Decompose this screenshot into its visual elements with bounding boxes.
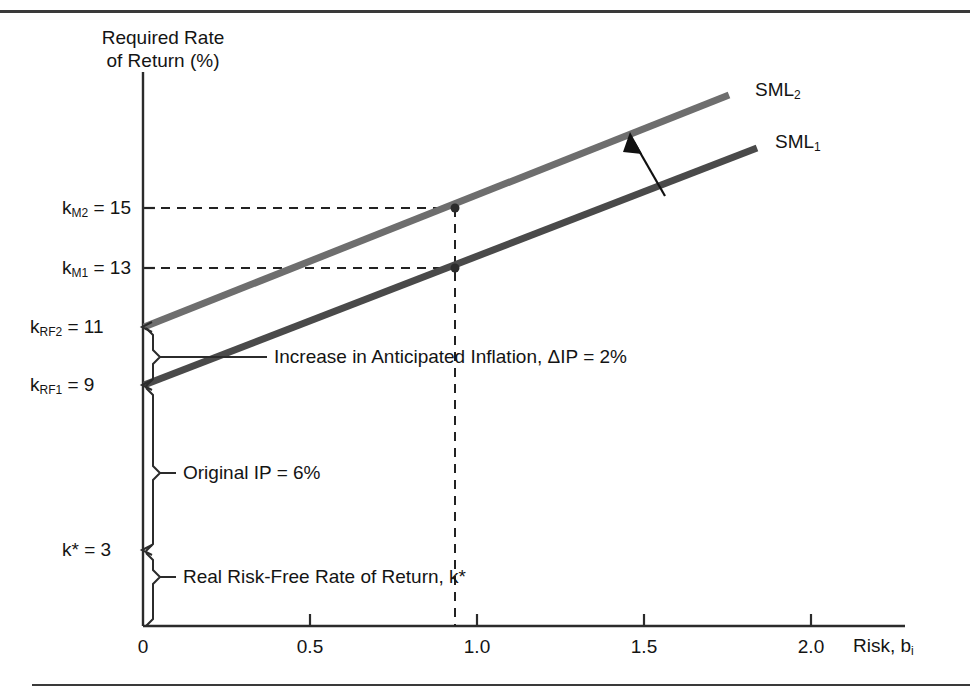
series-label-sml1: SML1 — [775, 132, 821, 151]
dashed-guide-lines — [145, 208, 455, 626]
ytick-kM2-sub: M2 — [72, 206, 89, 220]
series-label-sml2: SML2 — [755, 80, 801, 99]
series-label-sml2-text: SML — [755, 79, 794, 100]
figure-container: Required Rate of Return (%) kM2 = 15 kM1… — [0, 0, 970, 698]
y-axis-title: Required Rate of Return (%) — [68, 26, 258, 72]
ytick-kRF2-sub: RF2 — [40, 325, 63, 339]
xtick-label-0: 0 — [123, 636, 163, 658]
ytick-kM1-sub: M1 — [72, 266, 89, 280]
ytick-kM2-value: = 15 — [93, 197, 131, 218]
y-axis-title-line2: of Return (%) — [107, 50, 220, 71]
xtick-label-2.0: 2.0 — [781, 636, 841, 658]
ytick-label-kRF1: kRF1 = 9 — [30, 375, 94, 394]
x-axis-title-sub: i — [911, 644, 914, 658]
point-kM1 — [451, 264, 460, 273]
series-label-sml1-text: SML — [775, 131, 814, 152]
y-axis-ticks — [143, 208, 155, 268]
annotation-real-risk-free: Real Risk-Free Rate of Return, k* — [183, 567, 466, 586]
ytick-label-kRF2: kRF2 = 11 — [30, 317, 104, 336]
ytick-label-kstar: k* = 3 — [62, 540, 111, 559]
series-label-sml1-sub: 1 — [814, 140, 821, 154]
ytick-kRF1-value: = 9 — [67, 374, 94, 395]
sml-shift-arrow — [623, 132, 665, 196]
ytick-label-kM2: kM2 = 15 — [62, 198, 131, 217]
xtick-label-1.0: 1.0 — [447, 636, 507, 658]
ytick-label-kM1: kM1 = 13 — [62, 258, 131, 277]
x-axis-title-text: Risk, b — [853, 635, 911, 656]
sml2-line — [144, 95, 729, 327]
y-axis-title-line1: Required Rate — [102, 27, 225, 48]
x-axis-ticks — [310, 614, 811, 626]
ytick-kRF2-symbol: k — [30, 316, 40, 337]
brace-original-ip — [142, 388, 176, 555]
x-axis-title: Risk, bi — [853, 636, 914, 655]
ytick-kRF1-symbol: k — [30, 374, 40, 395]
ytick-kstar-value: = 3 — [84, 539, 111, 560]
annotation-delta-ip: Increase in Anticipated Inflation, ΔIP =… — [274, 347, 627, 366]
xtick-label-1.5: 1.5 — [614, 636, 674, 658]
ytick-kstar-symbol: k* — [62, 539, 79, 560]
ytick-kRF1-sub: RF1 — [40, 383, 63, 397]
series-label-sml2-sub: 2 — [794, 88, 801, 102]
xtick-label-0.5: 0.5 — [280, 636, 340, 658]
brace-real-risk-free — [146, 553, 176, 626]
annotation-original-ip: Original IP = 6% — [183, 463, 320, 482]
point-kM2 — [451, 204, 460, 213]
ytick-kM2-symbol: k — [62, 197, 72, 218]
ytick-kM1-symbol: k — [62, 257, 72, 278]
ytick-kRF2-value: = 11 — [67, 316, 103, 337]
ytick-kM1-value: = 13 — [93, 257, 131, 278]
